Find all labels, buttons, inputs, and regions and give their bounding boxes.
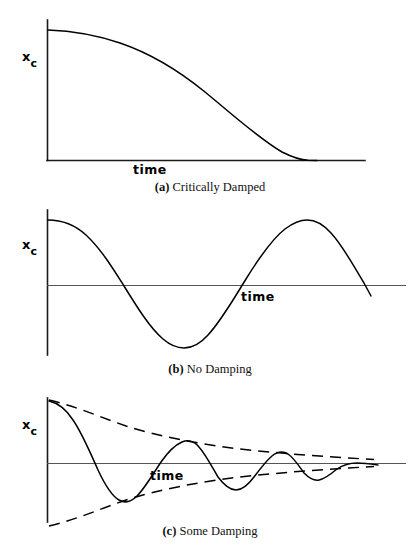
caption-b-tag: (b) [168,362,183,376]
x-axis-label-c: time [150,470,184,483]
y-axis-label-b-sub: c [30,245,37,258]
x-axis-label-a: time [133,164,167,177]
x-axis-label-b: time [241,291,275,304]
damped-oscillation-curve [49,401,378,502]
caption-b: (b) No Damping [0,363,420,376]
y-axis-label-c: xc [22,418,38,435]
y-axis-label-a-sub: c [30,57,37,70]
panel-some-damping: xc time (c) Some Damping [0,380,420,550]
lower-envelope-dashed [49,467,374,527]
plot-no-damping [0,195,420,380]
panel-no-damping: xc time (b) No Damping [0,195,420,380]
caption-a-text: Critically Damped [173,180,266,194]
caption-b-text: No Damping [187,362,252,376]
caption-a: (a) Critically Damped [0,181,420,194]
caption-c: (c) Some Damping [0,525,420,538]
caption-c-tag: (c) [162,524,176,538]
caption-c-text: Some Damping [179,524,257,538]
damping-figure: xc time (a) Critically Damped xc time (b… [0,0,420,550]
upper-envelope-dashed [49,400,374,460]
caption-a-tag: (a) [155,180,170,194]
plot-critically-damped [0,0,420,195]
y-axis-label-c-sub: c [30,425,37,438]
undamped-cosine-curve [48,220,371,348]
panel-critically-damped: xc time (a) Critically Damped [0,0,420,195]
critically-damped-curve [48,30,317,160]
y-axis-label-b: xc [22,238,38,255]
y-axis-label-a: xc [22,50,38,67]
